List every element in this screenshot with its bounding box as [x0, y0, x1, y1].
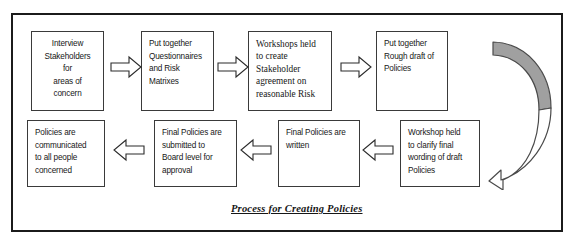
- process-box-workshops-stakeholder-agreement: Workshops held to create Stakeholder agr…: [248, 31, 332, 111]
- arrow-left-workshop-to-final-written: [362, 138, 394, 162]
- arrow-right-questionnaires-to-workshops: [217, 55, 249, 79]
- box-line: agreement on: [256, 75, 324, 87]
- process-box-policies-communicated: Policies are communicated to all people …: [27, 120, 105, 187]
- process-box-workshop-clarify-wording: Workshop held to clarify final wording o…: [400, 120, 480, 187]
- process-box-interview-stakeholders: Interview Stakeholders for areas of conc…: [31, 31, 104, 111]
- box-line: Workshops held: [256, 38, 324, 50]
- process-box-rough-draft-policies: Put together Rough draft of Policies: [376, 31, 448, 111]
- box-line: Interview: [39, 38, 96, 51]
- box-line: Rough draft of: [384, 51, 440, 64]
- process-box-submitted-board-approval: Final Policies are submitted to Board le…: [154, 120, 237, 187]
- arrow-left-final-written-to-board: [240, 138, 272, 162]
- box-line: Stakeholders for: [39, 51, 96, 76]
- box-line: to clarify final: [408, 140, 472, 153]
- process-box-questionnaires-risk-matrixes: Put together Questionnaires and Risk Mat…: [141, 31, 214, 111]
- box-line: Policies: [384, 63, 440, 76]
- box-line: Policies are: [35, 127, 97, 140]
- process-box-final-policies-written: Final Policies are written: [278, 120, 360, 187]
- box-line: concerned: [35, 165, 97, 178]
- box-line: to all people: [35, 152, 97, 165]
- flowchart-canvas: Interview Stakeholders for areas of conc…: [0, 0, 581, 250]
- box-line: Questionnaires: [149, 51, 206, 64]
- box-line: written: [286, 140, 352, 153]
- box-line: Stakeholder: [256, 63, 324, 75]
- box-line: areas of concern: [39, 76, 96, 101]
- arrow-curved-wrap-to-bottom-row: [487, 30, 559, 190]
- box-line: Policies: [408, 165, 472, 178]
- box-line: Final Policies are: [162, 127, 229, 140]
- arrow-right-interview-to-questionnaires: [110, 55, 142, 79]
- box-line: and Risk: [149, 63, 206, 76]
- diagram-caption: Process for Creating Policies: [231, 203, 363, 214]
- box-line: approval: [162, 165, 229, 178]
- box-line: Final Policies are: [286, 127, 352, 140]
- box-line: communicated: [35, 140, 97, 153]
- box-line: wording of draft: [408, 152, 472, 165]
- box-line: Board level for: [162, 152, 229, 165]
- box-line: Matrixes: [149, 76, 206, 89]
- box-line: Put together: [149, 38, 206, 51]
- box-line: submitted to: [162, 140, 229, 153]
- arrow-left-board-to-communicated: [113, 138, 145, 162]
- box-line: Put together: [384, 38, 440, 51]
- arrow-right-workshops-to-rough-draft: [340, 55, 372, 79]
- box-line: Workshop held: [408, 127, 472, 140]
- box-line: to create: [256, 50, 324, 62]
- box-line: reasonable Risk: [256, 88, 324, 100]
